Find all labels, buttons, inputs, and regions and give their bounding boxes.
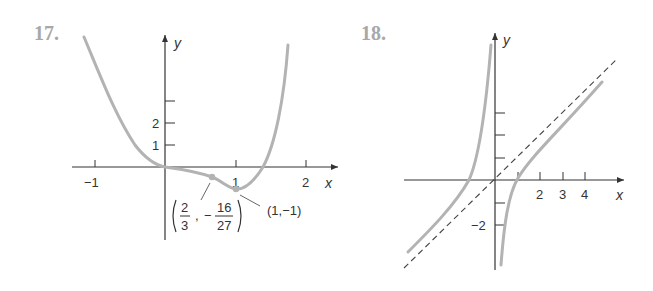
graph-18: y x 2 3 4 −2 — [404, 32, 624, 270]
x-axis-label: x — [324, 175, 333, 191]
frac-num-y: 16 — [217, 200, 231, 215]
y-tick-label: −2 — [471, 218, 486, 233]
minimum-point — [233, 186, 239, 192]
x-tick-label: 3 — [559, 187, 566, 202]
x-tick-label: 2 — [302, 175, 309, 190]
x-axis-label: x — [615, 187, 624, 203]
curve-17 — [84, 37, 288, 189]
frac-sign: − — [204, 208, 212, 223]
y-tick-label: 2 — [152, 116, 159, 131]
leader-line — [240, 195, 260, 206]
x-tick-label: −1 — [84, 175, 99, 190]
graphs-canvas: y x −1 1 2 1 2 (1,−1) 2 3 , − — [0, 0, 653, 291]
x-tick-label: 2 — [536, 187, 543, 202]
asymptote-y-equals-x — [404, 60, 616, 268]
frac-den-y: 27 — [217, 218, 231, 233]
graph-17: y x −1 1 2 1 2 (1,−1) 2 3 , − — [72, 35, 338, 240]
frac-num-x: 2 — [181, 200, 188, 215]
point-label-inflection: 2 3 , − 16 27 — [173, 200, 241, 233]
frac-den-x: 3 — [181, 218, 188, 233]
leader-line — [201, 183, 210, 200]
y-axis-label: y — [502, 32, 511, 48]
curve-18-right-branch — [501, 82, 602, 265]
x-tick-label: 4 — [581, 187, 588, 202]
y-tick-label: 1 — [152, 138, 159, 153]
comma: , — [195, 208, 199, 223]
inflection-point — [209, 174, 215, 180]
point-label-minimum: (1,−1) — [267, 203, 301, 218]
y-axis-label: y — [173, 35, 182, 51]
